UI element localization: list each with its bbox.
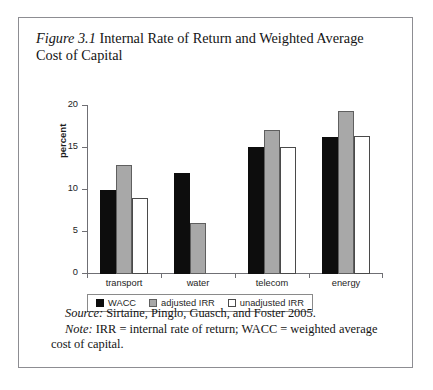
figure-frame: Figure 3.1 Internal Rate of Return and W… <box>18 17 413 368</box>
bar <box>354 136 370 274</box>
x-tick <box>87 274 88 278</box>
x-tick <box>382 274 383 278</box>
category-label-energy: energy <box>332 278 360 288</box>
note-text: IRR = internal rate of return; WACC = we… <box>51 322 377 352</box>
bar <box>338 111 354 274</box>
bar <box>132 198 148 274</box>
bar <box>280 147 296 274</box>
y-tick-label: 5 <box>73 225 78 235</box>
bar <box>264 130 280 274</box>
source-text: Sirtaine, Pinglo, Guasch, and Foster 200… <box>103 306 316 320</box>
y-tick-label: 0 <box>73 267 78 277</box>
bar <box>116 165 132 274</box>
x-tick <box>309 274 310 278</box>
y-tick-label: 20 <box>68 99 78 109</box>
category-label-telecom: telecom <box>256 278 289 288</box>
note-line: Note: IRR = internal rate of return; WAC… <box>51 322 399 353</box>
category-label-water: water <box>187 278 210 288</box>
bar <box>190 223 206 274</box>
y-tick: 20 <box>82 105 87 106</box>
source-label: Source: <box>65 306 103 320</box>
figure-number: Figure 3.1 <box>36 30 96 46</box>
figure-title: Figure 3.1 Internal Rate of Return and W… <box>36 30 386 64</box>
bar <box>100 190 116 274</box>
y-tick-label: 10 <box>68 183 78 193</box>
source-line: Source: Sirtaine, Pinglo, Guasch, and Fo… <box>51 306 399 322</box>
chart-area: percent 05101520 transportwatertelecomen… <box>19 66 414 288</box>
x-tick <box>161 274 162 278</box>
bar <box>322 137 338 274</box>
y-axis-label: percent <box>57 144 68 158</box>
bar <box>174 173 190 274</box>
note-label: Note: <box>65 322 93 336</box>
bar <box>248 147 264 274</box>
y-axis-line <box>87 105 88 274</box>
plot-region: 05101520 transportwatertelecomenergy <box>87 106 383 274</box>
category-label-transport: transport <box>106 278 143 288</box>
y-tick: 15 <box>82 147 87 148</box>
figure-footnotes: Source: Sirtaine, Pinglo, Guasch, and Fo… <box>51 306 399 353</box>
x-tick <box>235 274 236 278</box>
y-tick-label: 15 <box>68 141 78 151</box>
y-tick: 5 <box>82 231 87 232</box>
y-tick: 10 <box>82 189 87 190</box>
